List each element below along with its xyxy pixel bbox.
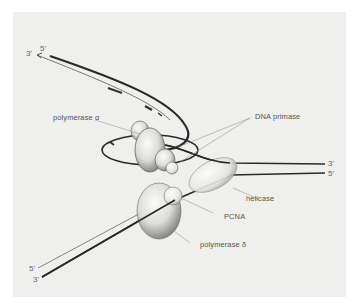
strand-end-5prime-right: 5' — [328, 169, 334, 178]
label-polymerase-delta: polymerase δ — [200, 240, 246, 249]
label-pcna: PCNA — [224, 212, 245, 221]
strand-end-3prime-right: 3' — [328, 159, 334, 168]
label-polymerase-alpha: polymerase α — [53, 113, 99, 122]
strand-end-5prime-top: 5' — [40, 44, 46, 53]
label-helicase: helicase — [246, 194, 274, 203]
pcna-protein — [164, 187, 182, 205]
strand-end-3prime-top: 3' — [26, 49, 32, 58]
label-dna-primase: DNA primase — [255, 112, 300, 121]
lagging-strand — [37, 53, 198, 165]
polymerase-delta-protein — [137, 183, 182, 239]
strand-end-3prime-bottom: 3' — [33, 275, 39, 284]
polymerase-alpha-protein — [131, 121, 178, 174]
parental-duplex — [165, 145, 325, 175]
replication-fork-diagram — [0, 0, 357, 308]
strand-end-5prime-bottom: 5' — [29, 264, 35, 273]
